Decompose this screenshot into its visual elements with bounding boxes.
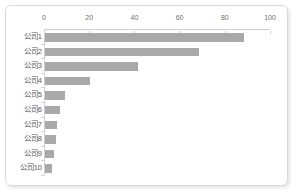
bar[interactable] [45,164,52,173]
bar-row: 公司2 [6,45,287,60]
x-tick-label: 80 [221,13,229,23]
bar-row: 公司1 [6,30,287,45]
bar-track [45,74,267,89]
bar[interactable] [45,106,60,115]
bar[interactable] [45,150,54,159]
category-label: 公司6 [0,103,42,118]
bar[interactable] [45,77,90,86]
bar-row: 公司9 [6,147,287,162]
bar-track [45,103,267,118]
category-label: 公司9 [0,147,42,162]
category-label: 公司7 [0,118,42,133]
bar-track [45,88,267,103]
bar[interactable] [45,135,56,144]
bar-track [45,59,267,74]
bar[interactable] [45,91,65,100]
bar-row: 公司8 [6,132,287,147]
bar-row: 公司3 [6,59,287,74]
category-label: 公司3 [0,59,42,74]
bar-track [45,147,267,162]
bar-track [45,30,267,45]
bar[interactable] [45,33,244,42]
bar-row: 公司10 [6,161,287,176]
bar-track [45,118,267,133]
category-label: 公司4 [0,74,42,89]
bar-track [45,161,267,176]
category-label: 公司2 [0,45,42,60]
x-tick-label: 0 [42,13,46,23]
bar-row: 公司6 [6,103,287,118]
bar-track [45,45,267,60]
x-tick-label: 20 [85,13,93,23]
bar-row: 公司4 [6,74,287,89]
category-label: 公司1 [0,30,42,45]
bar-rows: 公司1公司2公司3公司4公司5公司6公司7公司8公司9公司10 [6,30,287,176]
category-label: 公司8 [0,132,42,147]
bar-row: 公司5 [6,88,287,103]
x-tick-label: 60 [176,13,184,23]
bar[interactable] [45,121,57,130]
x-tick-label: 100 [264,13,276,23]
bar-track [45,132,267,147]
y-tick-mark [41,175,44,176]
bar-row: 公司7 [6,118,287,133]
category-label: 公司5 [0,88,42,103]
category-label: 公司10 [0,161,42,176]
bar[interactable] [45,62,138,71]
chart-card: 020406080100 公司1公司2公司3公司4公司5公司6公司7公司8公司9… [5,5,288,186]
bar-chart-plot: 020406080100 公司1公司2公司3公司4公司5公司6公司7公司8公司9… [6,6,287,185]
bar[interactable] [45,48,199,57]
x-tick-label: 40 [130,13,138,23]
x-axis-tick-labels: 020406080100 [44,13,270,27]
